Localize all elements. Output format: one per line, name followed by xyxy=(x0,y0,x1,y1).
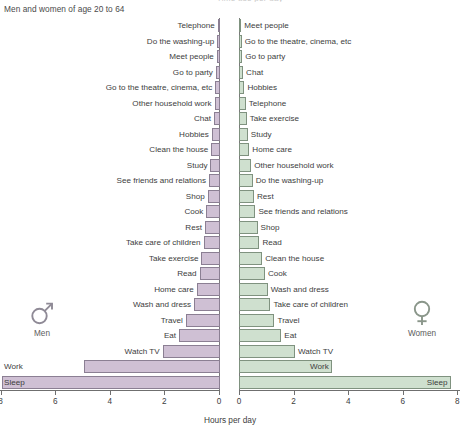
legend-women: Women xyxy=(392,298,452,338)
bar-women[interactable] xyxy=(239,50,242,63)
bar-label: Study xyxy=(187,159,208,172)
bar-men[interactable] xyxy=(217,35,220,48)
bar-women[interactable] xyxy=(239,174,253,187)
axis-tick-label: 2 xyxy=(154,397,174,406)
bar-men[interactable] xyxy=(84,360,221,373)
bar-label: Telephone xyxy=(177,19,214,32)
bar-men[interactable] xyxy=(216,66,220,79)
bar-women[interactable] xyxy=(239,329,281,342)
axis-tick xyxy=(403,390,404,395)
axis-tick-label: 8 xyxy=(0,397,11,406)
bar-women[interactable] xyxy=(239,314,274,327)
bar-women[interactable] xyxy=(239,298,270,311)
bar-men[interactable] xyxy=(218,19,220,32)
bar-men[interactable] xyxy=(211,143,220,156)
chart-root: Time use per day Men and women of age 20… xyxy=(0,0,460,428)
bar-women[interactable] xyxy=(239,252,262,265)
venus-symbol-icon xyxy=(407,298,437,328)
bar-men[interactable] xyxy=(214,112,220,125)
bar-women[interactable] xyxy=(239,345,295,358)
bar-row: Take exercise xyxy=(239,111,460,126)
bar-women[interactable] xyxy=(239,221,258,234)
axis-tick xyxy=(1,390,2,395)
bar-label: Sleep xyxy=(4,376,25,389)
bar-women[interactable] xyxy=(239,66,243,79)
bar-row: Shop xyxy=(0,189,220,204)
bar-label: Other household work xyxy=(132,97,211,110)
bar-women[interactable] xyxy=(239,128,248,141)
bar-row: Chat xyxy=(239,65,460,80)
bar-row: Home care xyxy=(0,282,220,297)
bar-row: Clean the house xyxy=(239,251,460,266)
bar-men[interactable] xyxy=(217,50,220,63)
bar-row: Sleep xyxy=(0,375,220,390)
bar-men[interactable] xyxy=(186,314,220,327)
bar-row: Go to party xyxy=(0,65,220,80)
bar-men[interactable] xyxy=(215,81,220,94)
bar-label: Travel xyxy=(161,314,183,327)
bar-row: Other household work xyxy=(239,158,460,173)
bar-row: Work xyxy=(0,359,220,374)
axis-title: Hours per day xyxy=(0,415,460,425)
bar-row: Home care xyxy=(239,142,460,157)
bar-label: Read xyxy=(262,236,281,249)
bar-women[interactable] xyxy=(239,143,249,156)
bar-row: Meet people xyxy=(239,18,460,33)
bar-label: Chat xyxy=(194,112,211,125)
bar-men[interactable] xyxy=(205,221,220,234)
bar-men[interactable] xyxy=(179,329,220,342)
bar-label: Go to the theatre, cinema, etc xyxy=(245,35,352,48)
bar-row: Rest xyxy=(239,189,460,204)
bar-men[interactable] xyxy=(204,236,220,249)
bar-label: Shop xyxy=(186,190,205,203)
bar-label: Home care xyxy=(252,143,292,156)
bar-label: Wash and dress xyxy=(133,298,191,311)
bar-women[interactable] xyxy=(239,112,247,125)
bar-row: Go to the theatre, cinema, etc xyxy=(239,34,460,49)
bar-men[interactable] xyxy=(212,128,220,141)
bar-men[interactable] xyxy=(163,345,220,358)
bar-women[interactable] xyxy=(239,376,451,389)
bar-women[interactable] xyxy=(239,35,242,48)
bar-women[interactable] xyxy=(239,283,268,296)
bar-label: Watch TV xyxy=(125,345,160,358)
bar-men[interactable] xyxy=(206,205,220,218)
bar-label: Sleep xyxy=(427,376,448,389)
bar-women[interactable] xyxy=(239,267,265,280)
bar-label: Eat xyxy=(284,329,296,342)
bar-men[interactable] xyxy=(2,376,220,389)
bar-label: Travel xyxy=(277,314,299,327)
bar-men[interactable] xyxy=(201,252,220,265)
bar-women[interactable] xyxy=(239,205,255,218)
bar-men[interactable] xyxy=(215,97,220,110)
bar-label: Go to party xyxy=(245,50,285,63)
bar-label: Meet people xyxy=(169,50,214,63)
bar-label: Telephone xyxy=(249,97,286,110)
bar-label: Eat xyxy=(164,329,176,342)
bar-men[interactable] xyxy=(210,159,220,172)
bar-label: Clean the house xyxy=(265,252,324,265)
bar-men[interactable] xyxy=(200,267,220,280)
bar-label: Watch TV xyxy=(298,345,333,358)
bar-men[interactable] xyxy=(194,298,220,311)
axis-tick-label: 4 xyxy=(338,397,358,406)
axis-tick-label: 8 xyxy=(447,397,460,406)
bar-men[interactable] xyxy=(208,190,220,203)
bar-women[interactable] xyxy=(239,190,254,203)
bar-row: Telephone xyxy=(239,96,460,111)
bar-women[interactable] xyxy=(239,81,244,94)
bar-row: Sleep xyxy=(239,375,460,390)
axis-tick xyxy=(164,390,165,395)
bar-label: Do the washing-up xyxy=(256,174,324,187)
legend-men-label: Men xyxy=(12,329,72,338)
bar-women[interactable] xyxy=(239,159,251,172)
bar-row: Watch TV xyxy=(0,344,220,359)
bar-women[interactable] xyxy=(239,19,241,32)
axis-tick-label: 2 xyxy=(284,397,304,406)
bar-men[interactable] xyxy=(209,174,220,187)
bar-label: Clean the house xyxy=(149,143,208,156)
bar-women[interactable] xyxy=(239,97,246,110)
bar-men[interactable] xyxy=(197,283,220,296)
bar-row: Study xyxy=(239,127,460,142)
bar-women[interactable] xyxy=(239,236,259,249)
